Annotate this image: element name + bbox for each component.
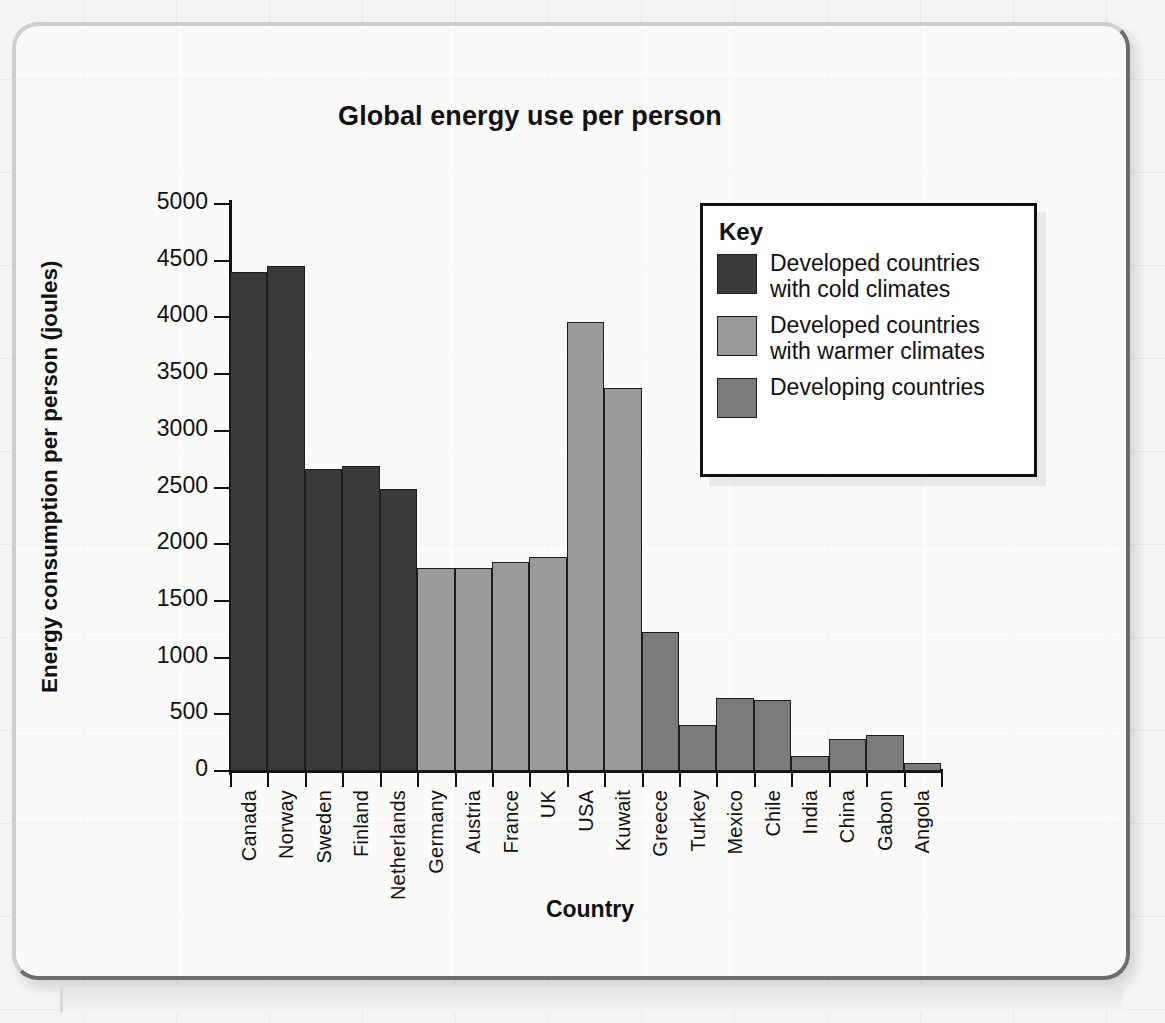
- x-tick-label: Turkey: [687, 790, 710, 852]
- legend-label: Developed countrieswith warmer climates: [770, 312, 985, 365]
- x-tick-label: Netherlands: [387, 790, 410, 900]
- x-tick-label: Kuwait: [612, 790, 635, 851]
- x-tick-mark: [791, 773, 793, 787]
- x-tick-mark: [754, 773, 756, 787]
- x-tick-label: Canada: [238, 790, 261, 861]
- x-tick-mark: [529, 773, 531, 787]
- x-tick-label: Finland: [350, 790, 373, 857]
- x-tick-mark: [267, 773, 269, 787]
- legend-label: Developing countries: [770, 374, 985, 400]
- x-tick-label: USA: [575, 790, 598, 832]
- x-tick-label: India: [799, 790, 822, 834]
- x-tick-label: Sweden: [313, 790, 336, 863]
- x-tick-mark: [567, 773, 569, 787]
- x-tick-label: France: [500, 790, 523, 853]
- x-tick-mark: [604, 773, 606, 787]
- x-tick-mark: [679, 773, 681, 787]
- legend-swatch: [717, 316, 757, 356]
- x-axis-label: Country: [370, 896, 810, 923]
- legend-row: Developed countrieswith cold climates: [717, 250, 1022, 303]
- x-tick-label: Austria: [462, 790, 485, 854]
- x-tick-label: Mexico: [724, 790, 747, 855]
- x-tick-mark: [417, 773, 419, 787]
- x-tick-label: Chile: [762, 790, 785, 837]
- legend-rows: Developed countrieswith cold climatesDev…: [717, 250, 1022, 418]
- x-tick-mark: [342, 773, 344, 787]
- legend-swatch: [717, 378, 757, 418]
- bar-chart: Global energy use per person Energy cons…: [0, 0, 1165, 1023]
- x-tick-mark: [455, 773, 457, 787]
- x-tick-mark: [492, 773, 494, 787]
- legend-row: Developing countries: [717, 374, 1022, 418]
- x-tick-mark: [716, 773, 718, 787]
- legend-title: Key: [719, 218, 1022, 246]
- legend-row: Developed countrieswith warmer climates: [717, 312, 1022, 365]
- x-tick-label: Greece: [649, 790, 672, 857]
- x-tick-label: China: [836, 790, 859, 843]
- x-tick-mark: [642, 773, 644, 787]
- x-tick-mark: [866, 773, 868, 787]
- x-tick-label: Norway: [275, 790, 298, 859]
- x-tick-mark: [941, 773, 943, 787]
- x-axis-ticks: CanadaNorwaySwedenFinlandNetherlandsGerm…: [0, 0, 1165, 1023]
- x-tick-mark: [230, 773, 232, 787]
- legend-swatch: [717, 254, 757, 294]
- legend-label: Developed countrieswith cold climates: [770, 250, 980, 303]
- x-tick-mark: [904, 773, 906, 787]
- legend-key-box: Key Developed countrieswith cold climate…: [700, 203, 1037, 477]
- x-tick-label: Germany: [425, 790, 448, 874]
- x-tick-mark: [380, 773, 382, 787]
- x-tick-label: Angola: [911, 790, 934, 853]
- x-tick-mark: [829, 773, 831, 787]
- x-tick-label: UK: [537, 790, 560, 818]
- x-tick-label: Gabon: [874, 790, 897, 851]
- x-tick-mark: [305, 773, 307, 787]
